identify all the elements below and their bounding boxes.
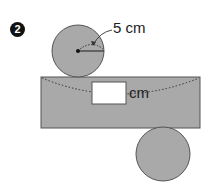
- radius-label: 5 cm: [113, 19, 146, 36]
- answer-unit-label: cm: [129, 84, 149, 101]
- problem-number-badge: 2: [10, 22, 25, 37]
- center-dot: [76, 49, 80, 53]
- cylinder-net-figure: [0, 0, 212, 189]
- answer-box[interactable]: [92, 82, 126, 104]
- bottom-circle: [136, 127, 190, 181]
